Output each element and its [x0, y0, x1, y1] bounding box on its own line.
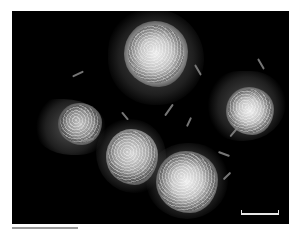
microscopy-image: [12, 11, 289, 224]
filament: [164, 104, 174, 117]
caption-rule: [12, 227, 78, 229]
scale-bar: [241, 213, 279, 215]
filament: [72, 71, 84, 78]
cell-top-center: [116, 15, 196, 95]
cell-right: [208, 71, 286, 141]
cell-bottom-center: [146, 143, 228, 219]
caption-text: [86, 226, 89, 232]
figure-caption: [12, 226, 289, 232]
filament: [186, 117, 192, 127]
filament: [257, 58, 265, 69]
